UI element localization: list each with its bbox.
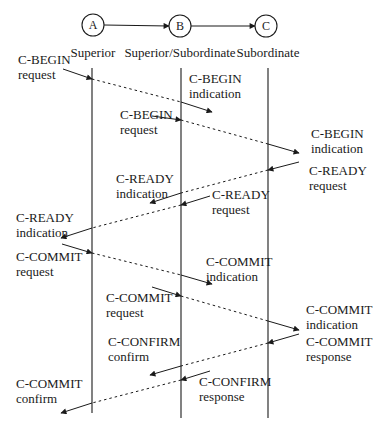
solid-segment (268, 321, 299, 330)
dashed-segment (181, 296, 268, 321)
messages (61, 69, 299, 413)
c-commit-confirm-a: C-COMMITconfirm (16, 376, 83, 406)
c-confirm-response-b: C-CONFIRMresponse (199, 374, 272, 404)
node-label: A (89, 18, 98, 32)
solid-segment (268, 334, 299, 343)
c-confirm-b-to-a (61, 371, 210, 413)
solid-segment (150, 366, 181, 375)
c-begin-indication-c: C-BEGINindication (311, 126, 364, 156)
solid-segment (181, 102, 212, 112)
node-c: C (255, 15, 277, 37)
node-a: A (82, 14, 104, 36)
transaction-sequence-diagram: ABC SuperiorSuperior/SubordinateSubordin… (0, 0, 375, 428)
role-label: Superior (71, 45, 116, 60)
dashed-segment (92, 380, 181, 403)
c-begin-request-b: C-BEGINrequest (120, 107, 173, 137)
c-begin-indication-b: C-BEGINindication (189, 71, 242, 101)
lifelines (92, 68, 268, 418)
dashed-segment (92, 253, 181, 275)
dashed-segment (181, 120, 268, 144)
solid-segment (268, 144, 299, 153)
c-commit-response-c: C-COMMITresponse (306, 334, 373, 364)
c-ready-indication-a: C-READYindication (16, 210, 74, 240)
c-commit-indication-b: C-COMMITindication (206, 254, 273, 284)
primitive-labels: C-BEGINrequestC-BEGINindicationC-BEGINre… (16, 52, 373, 406)
solid-segment (268, 162, 299, 170)
c-commit-request-b: C-COMMITrequest (106, 290, 173, 320)
node-label: B (176, 19, 184, 33)
solid-segment (63, 69, 92, 79)
c-ready-request-c: C-READYrequest (309, 163, 367, 193)
solid-segment (181, 196, 210, 205)
dashed-segment (92, 205, 181, 228)
c-confirm-confirm-b: C-CONFIRMconfirm (108, 334, 181, 364)
c-commit-b-to-c (152, 287, 299, 330)
role-labels: SuperiorSuperior/SubordinateSubordinate (71, 45, 300, 60)
node-label: C (262, 19, 270, 33)
c-begin-b-to-c (152, 116, 299, 153)
c-commit-indication-c: C-COMMITindication (306, 302, 373, 332)
arrow-a-to-b (104, 25, 169, 26)
solid-segment (61, 403, 92, 413)
dashed-segment (181, 343, 268, 366)
c-ready-request-b: C-READYrequest (212, 187, 270, 217)
node-b: B (169, 15, 191, 37)
dashed-segment (92, 79, 181, 102)
c-begin-request-a: C-BEGINrequest (18, 52, 71, 82)
c-ready-indication-b: C-READYindication (116, 171, 174, 201)
c-ready-b-to-a (61, 196, 210, 238)
role-label: Superior/Subordinate (124, 45, 235, 60)
c-commit-a-to-b (62, 244, 212, 284)
role-label: Subordinate (237, 45, 300, 60)
c-commit-request-a: C-COMMITrequest (16, 249, 83, 279)
